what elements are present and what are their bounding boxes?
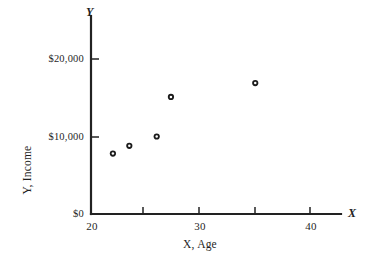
y-axis-letter: Y bbox=[86, 6, 94, 18]
data-point-center bbox=[254, 82, 257, 85]
data-point-center bbox=[155, 135, 158, 138]
data-point-center bbox=[112, 152, 115, 155]
x-tick-label-30: 30 bbox=[194, 221, 205, 232]
data-point-group bbox=[110, 80, 259, 157]
y-axis-title: Y, Income bbox=[22, 146, 34, 195]
y-tick-label-0: $0 bbox=[22, 209, 84, 220]
x-tick-label-20: 20 bbox=[86, 221, 97, 232]
data-point-center bbox=[170, 96, 173, 99]
scatter-plot-figure: Y X $20,000 $10,000 $0 20 30 40 X, Age Y… bbox=[0, 0, 372, 263]
data-point-center bbox=[128, 145, 131, 148]
x-axis-title: X, Age bbox=[183, 239, 217, 251]
y-tick-label-20000: $20,000 bbox=[22, 54, 84, 65]
y-tick-label-10000: $10,000 bbox=[22, 132, 84, 143]
x-tick-label-40: 40 bbox=[305, 221, 316, 232]
x-axis-letter: X bbox=[348, 207, 356, 219]
